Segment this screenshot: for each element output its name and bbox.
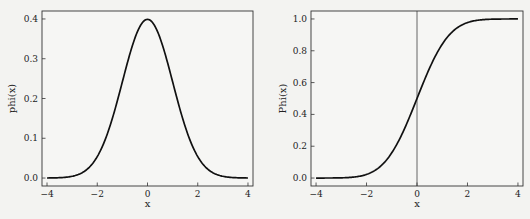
y-tick-label: 0.4	[24, 14, 39, 24]
x-axis-label: x	[414, 198, 420, 209]
x-tick-label: 4	[515, 189, 521, 199]
y-tick-label: 0.1	[24, 133, 38, 143]
plot-area	[42, 11, 253, 186]
x-tick-label: −2	[91, 189, 104, 199]
y-tick-label: 0.2	[24, 94, 38, 104]
x-tick-label: 2	[195, 189, 201, 199]
y-tick-label: 1.0	[293, 14, 308, 24]
y-axis-label: phi(x)	[6, 84, 17, 114]
figure: −4−20240.00.10.20.30.4xphi(x) −4−20240.0…	[0, 0, 530, 219]
y-tick-label: 0.6	[293, 78, 308, 88]
y-axis-label: Phi(x)	[277, 83, 288, 113]
x-tick-label: −4	[309, 189, 323, 199]
x-axis-label: x	[145, 198, 151, 209]
x-tick-label: 4	[245, 189, 251, 199]
y-tick-label: 0.0	[293, 173, 308, 183]
x-tick-label: 2	[465, 189, 471, 199]
y-tick-label: 0.3	[24, 54, 39, 64]
cdf-chart: −4−20240.00.20.40.60.81.0xPhi(x)	[277, 11, 523, 209]
y-tick-label: 0.2	[293, 141, 307, 151]
y-tick-label: 0.4	[293, 109, 308, 119]
x-tick-label: −4	[40, 189, 54, 199]
y-tick-label: 0.8	[293, 46, 308, 56]
pdf-chart: −4−20240.00.10.20.30.4xphi(x)	[6, 11, 253, 209]
x-tick-label: −2	[360, 189, 373, 199]
y-tick-label: 0.0	[24, 173, 39, 183]
